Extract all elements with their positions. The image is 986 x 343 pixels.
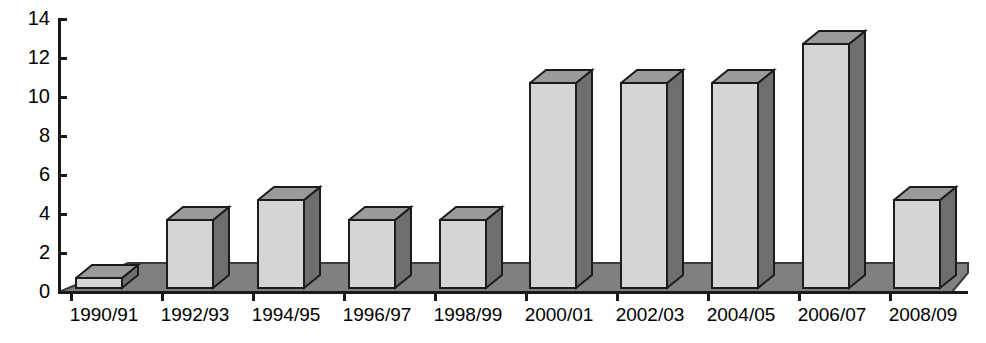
x-axis-tick-label: 1990/91 bbox=[54, 305, 154, 324]
x-axis-tick bbox=[252, 291, 255, 301]
bar-face-side bbox=[849, 31, 865, 288]
y-axis-tick-label: 0 bbox=[0, 281, 50, 301]
x-axis-tick-label: 1994/95 bbox=[236, 305, 336, 324]
x-axis-tick bbox=[616, 291, 619, 301]
y-axis-tick-label: 4 bbox=[0, 203, 50, 223]
bar-face-side bbox=[304, 187, 320, 288]
y-axis-tick-label: 10 bbox=[0, 86, 50, 106]
bar-face-side bbox=[758, 70, 774, 288]
y-axis-tick-label: 14 bbox=[0, 8, 50, 28]
y-axis-tick bbox=[58, 57, 67, 60]
x-axis-tick bbox=[707, 291, 710, 301]
bar-face-front bbox=[803, 44, 849, 288]
y-axis-tick bbox=[58, 135, 67, 138]
x-axis-tick bbox=[525, 291, 528, 301]
bar-chart: 02468101214 1990/911992/931994/951996/97… bbox=[0, 0, 986, 343]
x-axis-tick-label: 1996/97 bbox=[327, 305, 427, 324]
x-axis-tick bbox=[798, 291, 801, 301]
x-axis-tick bbox=[434, 291, 437, 301]
y-axis-tick bbox=[58, 174, 67, 177]
bar-face-side bbox=[940, 187, 956, 288]
x-axis-tick-label: 2000/01 bbox=[509, 305, 609, 324]
x-axis-tick bbox=[889, 291, 892, 301]
bar-face-front bbox=[621, 83, 667, 288]
bar-face-front bbox=[530, 83, 576, 288]
x-axis-tick-label: 1992/93 bbox=[145, 305, 245, 324]
bar-face-front bbox=[167, 220, 213, 288]
x-axis-tick-label: 2008/09 bbox=[873, 305, 973, 324]
y-axis-tick bbox=[58, 18, 67, 21]
bar-face-front bbox=[76, 278, 122, 288]
y-axis-tick bbox=[58, 252, 67, 255]
bar-face-front bbox=[894, 200, 940, 288]
x-axis-line bbox=[58, 291, 968, 294]
x-axis-tick-label: 1998/99 bbox=[418, 305, 518, 324]
y-axis-tick bbox=[58, 96, 67, 99]
x-axis-tick-label: 2004/05 bbox=[691, 305, 791, 324]
bar-face-front bbox=[258, 200, 304, 288]
x-axis-tick bbox=[343, 291, 346, 301]
x-axis-tick-label: 2006/07 bbox=[782, 305, 882, 324]
bar-face-side bbox=[667, 70, 683, 288]
y-axis-tick-label: 6 bbox=[0, 164, 50, 184]
x-axis-tick bbox=[161, 291, 164, 301]
y-axis-tick-label: 8 bbox=[0, 125, 50, 145]
bar-face-front bbox=[712, 83, 758, 288]
y-axis-tick-label: 2 bbox=[0, 242, 50, 262]
bar-face-front bbox=[440, 220, 486, 288]
y-axis-tick-label: 12 bbox=[0, 47, 50, 67]
bar-face-front bbox=[349, 220, 395, 288]
x-axis-tick-label: 2002/03 bbox=[600, 305, 700, 324]
y-axis-tick bbox=[58, 213, 67, 216]
x-axis-tick bbox=[70, 291, 73, 301]
bar-face-side bbox=[576, 70, 592, 288]
